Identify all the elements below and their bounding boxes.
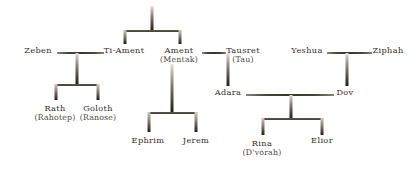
person-goloth-name: Goloth [80,104,117,113]
descent-stem-root [151,6,154,30]
person-rath-name: Rath [34,104,75,113]
sibling-bar-ephrim-jerem [148,112,197,114]
person-adara-name: Adara [215,88,242,97]
person-ephrim: Ephrim [132,136,165,145]
person-ziphah: Ziphah [372,46,403,55]
drop-stem-elior [321,118,324,135]
person-goloth: Goloth (Ranose) [80,104,117,123]
person-tausret: Tausret (Tau) [226,46,260,65]
person-elior: Elior [311,136,333,145]
person-yeshua: Yeshua [291,46,322,55]
drop-stem-ephrim [148,112,151,132]
person-adara: Adara [215,88,242,97]
drop-stem-rath [55,84,58,100]
person-rina: Rina (D'vorah) [243,139,282,158]
person-rath: Rath (Rahotep) [34,104,75,123]
person-rina-name: Rina [243,139,282,148]
person-zeben: Zeben [24,46,52,55]
family-tree-chart: Zeben Ti-Ament Ament (Mentak) Tausret (T… [0,0,416,169]
descent-stem-tausret-adara [227,53,230,86]
drop-stem-goloth [97,84,100,100]
descent-stem-yeshua-ziphah [346,53,349,86]
person-rath-alt-name: (Rahotep) [34,113,75,122]
sibling-bar-rath-goloth [55,84,99,86]
sibling-bar-rina-elior [262,118,323,120]
sibling-bar-tiament-ament [124,30,181,32]
person-tiament: Ti-Ament [104,46,145,55]
descent-stem-zeben-tiament [76,53,79,84]
person-zeben-name: Zeben [24,46,52,55]
person-tausret-name: Tausret [226,46,260,55]
person-ziphah-name: Ziphah [372,46,403,55]
union-line-zeben-tiament [57,52,104,54]
drop-stem-ament [179,30,182,44]
person-elior-name: Elior [311,136,333,145]
descent-stem-ament-tausret [171,64,174,112]
person-ament-alt-name: (Mentak) [160,55,198,64]
person-tausret-alt-name: (Tau) [226,55,260,64]
union-line-ament-tausret [202,52,226,54]
person-dov: Dov [336,88,353,97]
drop-stem-jerem [195,112,198,132]
union-line-yeshua-ziphah [327,52,372,54]
person-tiament-name: Ti-Ament [104,46,145,55]
drop-stem-tiament [124,30,127,44]
person-ament-name: Ament [160,46,198,55]
person-jerem: Jerem [183,136,209,145]
person-goloth-alt-name: (Ranose) [80,113,117,122]
descent-stem-adara-dov [290,95,293,118]
person-jerem-name: Jerem [183,136,209,145]
person-rina-alt-name: (D'vorah) [243,148,282,157]
person-ament: Ament (Mentak) [160,46,198,65]
person-ephrim-name: Ephrim [132,136,165,145]
drop-stem-rina [262,118,265,135]
person-dov-name: Dov [336,88,353,97]
person-yeshua-name: Yeshua [291,46,322,55]
